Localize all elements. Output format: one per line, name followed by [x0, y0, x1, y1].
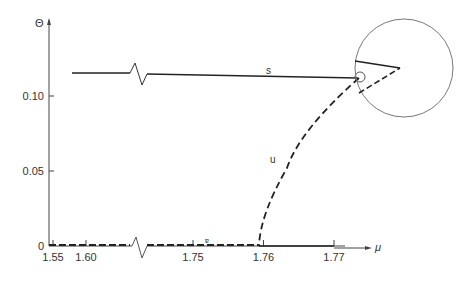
- inset-dashed-line: [359, 68, 400, 93]
- x-tick-label: 1.60: [75, 251, 96, 263]
- u-label: u: [270, 154, 276, 165]
- x-tick-label: 1.75: [182, 251, 203, 263]
- y-tick-label: 0: [38, 240, 44, 252]
- inset-circle: [355, 19, 453, 117]
- x-tick-label: 1.77: [323, 251, 344, 263]
- x-axis-break-icon: [132, 237, 147, 258]
- x-tick-label: 1.76: [253, 251, 274, 263]
- x-axis-label: μ: [374, 241, 381, 253]
- y-axis-label: Θ: [35, 17, 44, 29]
- inset-solid-line: [355, 61, 400, 68]
- chart: Θ μ 1.551.601.751.761.77 00.050.10 s u ɐ: [0, 0, 471, 282]
- x-tick-label: 1.55: [42, 251, 63, 263]
- small-marker: ɐ: [205, 237, 209, 244]
- y-tick-label: 0.10: [23, 90, 44, 102]
- y-tick-label: 0.05: [23, 165, 44, 177]
- s-label: s: [266, 65, 271, 76]
- x-axis-arrow: [365, 246, 372, 250]
- y-axis-arrow: [47, 18, 51, 25]
- s-branch: [147, 74, 358, 78]
- s-branch-break-icon: [130, 63, 147, 85]
